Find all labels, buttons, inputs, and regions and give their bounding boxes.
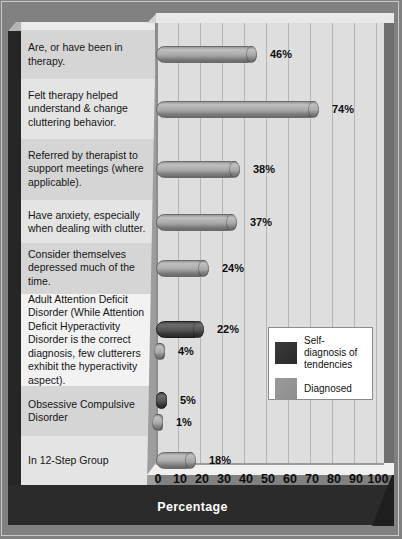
x-tick-80: 80 [327,472,341,486]
legend-swatch-diagnosed [275,378,297,400]
x-tick-50: 50 [261,472,275,486]
category-label-text: Obsessive Compulsive Disorder [28,398,148,425]
legend-item-diagnosed: Diagnosed [275,378,366,400]
x-axis-title: Percentage [0,500,385,514]
legend-item-self-diagnosis: Self-diagnosis of tendencies [275,335,366,371]
category-label-row-0: Are, or have been in therapy. [21,30,155,79]
category-label-text: Have anxiety, especially when dealing wi… [28,209,148,236]
category-label-row-1: Felt therapy helped understand & change … [21,79,155,139]
bar-value-label: 22% [217,321,239,338]
x-tick-0: 0 [155,472,162,486]
category-label-column: Are, or have been in therapy.Felt therap… [21,30,155,485]
bar-value-label: 24% [222,260,244,277]
x-tick-100: 100 [368,472,389,486]
bar-38-diagnosed [156,161,240,178]
category-label-row-6: Obsessive Compulsive Disorder [21,386,155,436]
bar-value-label: 1% [176,414,192,431]
x-tick-40: 40 [239,472,253,486]
legend-swatch-self-diagnosis [275,342,297,364]
x-tick-70: 70 [305,472,319,486]
bar-value-label: 18% [209,452,231,469]
bar-1-diagnosed [156,414,163,431]
bar-37-diagnosed [156,214,237,231]
bar-value-label: 37% [250,214,272,231]
category-label-text: Are, or have been in therapy. [28,41,148,68]
x-axis-ticks: 0102030405060708090100 [147,472,394,488]
x-tick-10: 10 [173,472,187,486]
bar-value-label: 74% [332,101,354,118]
bar-4-diagnosed [156,343,165,360]
category-label-text: Adult Attention Deficit Disorder (While … [28,293,148,388]
category-label-text: Referred by therapist to support meeting… [28,149,148,190]
legend-label-self-diagnosis: Self-diagnosis of tendencies [304,335,366,371]
category-label-row-7: In 12-Step Group [21,436,155,485]
x-tick-90: 90 [349,472,363,486]
frame-left-edge [8,30,21,485]
bar-value-label: 38% [253,161,275,178]
bar-value-label: 5% [180,392,196,409]
x-tick-20: 20 [195,472,209,486]
category-label-text: Consider themselves depressed much of th… [28,248,148,289]
category-label-row-5: Adult Attention Deficit Disorder (While … [21,294,155,386]
legend-label-diagnosed: Diagnosed [304,383,352,395]
chart-root: Are, or have been in therapy.Felt therap… [0,0,402,539]
plot-top-bevel [156,13,394,23]
bar-value-label: 4% [178,343,194,360]
legend: Self-diagnosis of tendencies Diagnosed [268,327,373,400]
bar-22-self-diagnosis [156,321,204,338]
bar-46-diagnosed [156,46,257,63]
bar-value-label: 46% [270,46,292,63]
category-label-text: Felt therapy helped understand & change … [28,89,148,130]
category-label-row-3: Have anxiety, especially when dealing wi… [21,200,155,244]
category-label-row-2: Referred by therapist to support meeting… [21,139,155,199]
bar-24-diagnosed [156,260,209,277]
bar-5-self-diagnosis [156,392,167,409]
bar-18-diagnosed [156,452,196,469]
category-label-text: In 12-Step Group [28,454,109,468]
x-tick-60: 60 [283,472,297,486]
category-label-row-4: Consider themselves depressed much of th… [21,243,155,293]
bar-74-diagnosed [156,101,319,118]
x-tick-30: 30 [217,472,231,486]
